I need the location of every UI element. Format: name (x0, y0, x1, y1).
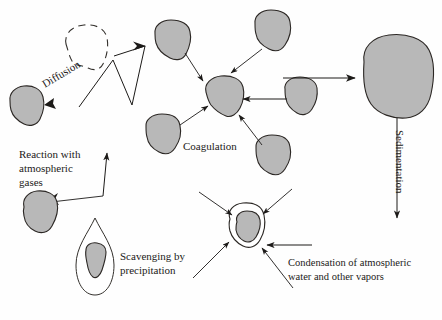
reaction-label-line2: atmospheric (19, 162, 73, 174)
scavenging-label-line1: Scavenging by (120, 250, 186, 262)
reaction-label-line1: Reaction with (19, 148, 81, 160)
condensation-label-line1: Condensation of atmospheric (288, 257, 411, 268)
coagulation-label: Coagulation (183, 140, 237, 152)
diagram-svg: Coagulation Sedimentation Diffusion Reac… (0, 0, 442, 320)
diagram-canvas: Coagulation Sedimentation Diffusion Reac… (0, 0, 442, 320)
sedimentation-label: Sedimentation (394, 130, 406, 194)
scavenging-label-line2: precipitation (120, 264, 176, 276)
condensation-label-line2: water and other vapors (288, 271, 384, 282)
reaction-label-line3: gases (19, 176, 43, 188)
large-sedimenting-particle (364, 35, 434, 119)
